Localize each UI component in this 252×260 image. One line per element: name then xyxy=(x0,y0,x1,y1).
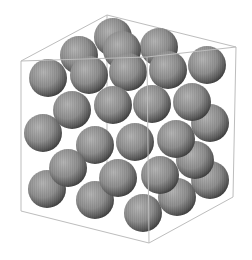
cube-edge xyxy=(233,47,236,197)
sphere xyxy=(99,159,137,197)
sphere xyxy=(157,120,195,158)
sphere xyxy=(124,194,162,232)
sphere xyxy=(133,85,171,123)
sphere xyxy=(173,83,211,121)
sphere xyxy=(49,149,87,187)
sphere xyxy=(94,86,132,124)
sphere xyxy=(70,56,108,94)
spheres-group xyxy=(24,18,229,232)
sphere xyxy=(53,91,91,129)
sphere xyxy=(141,156,179,194)
sphere xyxy=(109,53,147,91)
sphere xyxy=(29,59,67,97)
sphere xyxy=(149,51,187,89)
sphere-packing-render xyxy=(0,0,252,260)
